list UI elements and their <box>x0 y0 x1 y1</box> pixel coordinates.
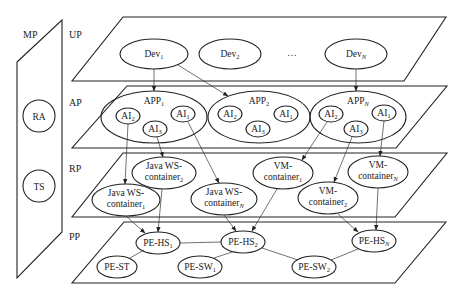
svg-text:DevN: DevN <box>346 49 367 60</box>
svg-text:VM-: VM- <box>274 161 292 171</box>
ellipsis: … <box>287 48 297 58</box>
svg-text:AI2: AI2 <box>121 111 134 122</box>
svg-text:AI3: AI3 <box>349 124 362 135</box>
svg-text:VM-: VM- <box>319 186 337 196</box>
svg-text:APP1: APP1 <box>144 96 165 107</box>
pe-st-node: PE-ST <box>97 256 137 278</box>
svg-text:PE-SW1: PE-SW1 <box>184 262 216 273</box>
pp-plane <box>72 222 446 283</box>
svg-text:container2: container2 <box>309 197 348 208</box>
pe-hs-n-node: PE-HSN <box>352 230 396 252</box>
pp-layer-label: PP <box>69 231 81 242</box>
svg-text:containerN: containerN <box>358 171 398 182</box>
svg-text:AI3: AI3 <box>251 124 264 135</box>
svg-text:PE-HSN: PE-HSN <box>359 236 390 247</box>
dev-1-node: Dev1 <box>120 39 188 69</box>
svg-text:Java WS-: Java WS- <box>206 187 243 197</box>
svg-text:Java WS-: Java WS- <box>108 188 145 198</box>
ts-node: TS <box>23 170 55 202</box>
svg-text:Dev2: Dev2 <box>220 49 239 60</box>
pe-sw-1-node: PE-SW1 <box>178 256 222 278</box>
java-ws-container-2-node: Java WS- container2 <box>132 157 196 189</box>
svg-text:TS: TS <box>33 182 44 192</box>
app-2-node: APP2 AI2 AI1 AI3 <box>208 91 310 143</box>
vm-container-1-node: VM- container1 <box>253 157 313 189</box>
svg-text:PE-HS1: PE-HS1 <box>143 238 173 249</box>
svg-text:container1: container1 <box>264 172 303 183</box>
dev-n-node: DevN <box>325 39 387 69</box>
layered-architecture-diagram: MP RA TS UP AP RP PP Dev1 Dev2 … DevN AP… <box>0 0 464 302</box>
vm-container-n-node: VM- containerN <box>348 156 408 188</box>
svg-text:AI1: AI1 <box>279 109 292 120</box>
svg-text:AI2: AI2 <box>324 109 337 120</box>
pe-hs-2-node: PE-HS2 <box>221 231 265 253</box>
vm-container-2-node: VM- container2 <box>298 182 358 214</box>
dev-2-node: Dev2 <box>199 39 261 69</box>
rp-layer-label: RP <box>69 163 82 174</box>
svg-text:AI1: AI1 <box>176 109 189 120</box>
svg-text:containerN: containerN <box>204 198 244 209</box>
svg-text:AI1: AI1 <box>377 108 390 119</box>
ap-layer-label: AP <box>69 97 82 108</box>
svg-text:AI3: AI3 <box>148 124 161 135</box>
app-n-node: APPN AI2 AI1 AI3 <box>310 91 406 143</box>
app-1-node: APP1 AI2 AI1 AI3 <box>101 91 207 143</box>
svg-text:AI2: AI2 <box>223 109 236 120</box>
svg-text:Java WS-: Java WS- <box>146 161 183 171</box>
java-ws-container-n-node: Java WS- containerN <box>191 183 257 215</box>
svg-text:VM-: VM- <box>369 160 387 170</box>
svg-text:container2: container2 <box>145 172 184 183</box>
svg-text:Dev1: Dev1 <box>144 49 163 60</box>
svg-text:container1: container1 <box>107 199 146 210</box>
java-ws-container-1-node: Java WS- container1 <box>92 184 160 216</box>
svg-text:APP2: APP2 <box>249 96 270 107</box>
svg-text:PE-HS2: PE-HS2 <box>228 237 258 248</box>
mp-label: MP <box>23 29 38 40</box>
up-layer-label: UP <box>69 29 82 40</box>
svg-text:APPN: APPN <box>347 96 369 107</box>
ra-node: RA <box>23 100 55 132</box>
pe-sw-2-node: PE-SW2 <box>292 256 336 278</box>
svg-text:RA: RA <box>32 112 45 122</box>
svg-text:PE-SW2: PE-SW2 <box>298 262 330 273</box>
management-plane-panel: MP RA TS <box>17 20 62 278</box>
svg-text:PE-ST: PE-ST <box>104 262 130 272</box>
